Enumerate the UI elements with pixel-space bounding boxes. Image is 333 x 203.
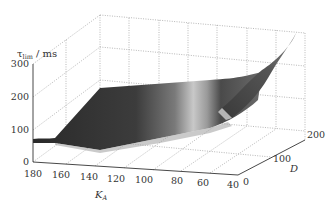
x-tick: 60 (197, 177, 209, 188)
x-tick: 160 (52, 169, 70, 180)
z-tick: 100 (11, 124, 29, 135)
x-tick: 100 (135, 174, 153, 185)
y-tick: 0 (243, 176, 249, 187)
x-tick: 40 (227, 179, 239, 190)
x-tick: 180 (24, 168, 42, 179)
y-tick: 200 (307, 129, 325, 140)
x-axis-label: KA (94, 189, 107, 202)
x-tick: 140 (80, 171, 98, 182)
y-tick: 100 (273, 153, 291, 164)
z-tick: 200 (11, 91, 29, 102)
y-axis-ticks: 0 100 200 (243, 129, 325, 187)
x-tick: 120 (107, 173, 125, 184)
x-axis-ticks: 180 160 140 120 100 80 60 40 (24, 168, 239, 190)
x-tick: 80 (171, 175, 183, 186)
z-axis-ticks: 300 200 100 0 (11, 58, 29, 167)
y-axis-label: D (289, 163, 298, 174)
z-axis-label: τlim / ms (17, 48, 57, 61)
surface (33, 33, 296, 153)
surface-plot: 300 200 100 0 τlim / ms 180 160 140 120 … (0, 0, 333, 203)
z-tick: 0 (23, 156, 29, 167)
